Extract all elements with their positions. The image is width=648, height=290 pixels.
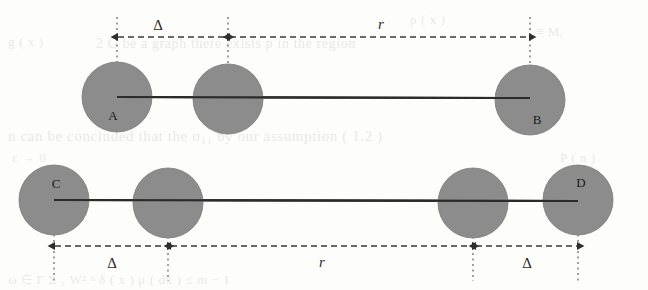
circle-bottom-inner-right xyxy=(438,168,508,238)
circle-b xyxy=(495,65,565,135)
circle-top-inner xyxy=(193,64,263,134)
figure-container: n can be concluded that the σ₁₁ by our a… xyxy=(0,0,648,290)
label-a: A xyxy=(108,108,118,123)
circle-bottom-inner-left xyxy=(133,168,203,238)
dimension-label-r-bottom: r xyxy=(319,254,325,270)
label-d: D xyxy=(576,175,585,190)
label-b: B xyxy=(533,112,542,127)
connector-line-top-overlay xyxy=(117,97,530,98)
dimension-label-delta-bottom-left: Δ xyxy=(107,255,117,271)
connector-line-bottom-overlay xyxy=(54,200,578,201)
dimension-label-r-top: r xyxy=(378,16,384,32)
dimension-label-delta-top: Δ xyxy=(153,17,163,33)
label-c: C xyxy=(52,176,61,191)
top-row-group: A B Δ r xyxy=(82,16,565,135)
diagram-svg: A B Δ r C D xyxy=(0,0,648,290)
bottom-row-group: C D Δ r Δ xyxy=(19,165,613,281)
dimension-label-delta-bottom-right: Δ xyxy=(522,255,532,271)
